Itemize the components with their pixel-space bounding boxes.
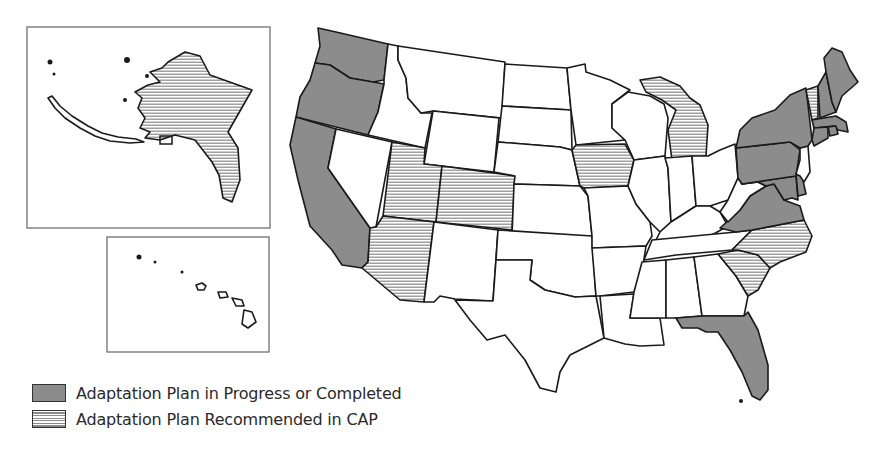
- legend: Adaptation Plan in Progress or Completed…: [32, 380, 401, 432]
- alaska-island: [124, 57, 130, 63]
- florida-keys: [739, 399, 743, 403]
- alaska-inset: [27, 27, 270, 228]
- legend-swatch-recommended: [32, 410, 66, 428]
- state-rhode-island[interactable]: [828, 126, 838, 136]
- state-wyoming[interactable]: [424, 111, 499, 172]
- hawaii-island-oahu[interactable]: [196, 283, 206, 290]
- legend-label-recommended: Adaptation Plan Recommended in CAP: [76, 410, 378, 429]
- alaska-island: [48, 60, 53, 65]
- state-florida[interactable]: [676, 312, 768, 400]
- state-kansas[interactable]: [512, 184, 592, 236]
- legend-label-progress: Adaptation Plan in Progress or Completed: [76, 384, 401, 403]
- hawaii-island-niihau: [137, 255, 142, 260]
- state-new-york[interactable]: [736, 88, 812, 148]
- hawaii-inset-frame: [107, 237, 269, 352]
- legend-item-progress: Adaptation Plan in Progress or Completed: [32, 380, 401, 406]
- alaska-island: [145, 74, 149, 78]
- hawaii-inset: [107, 237, 269, 352]
- state-north-dakota[interactable]: [502, 64, 571, 110]
- state-new-mexico[interactable]: [424, 222, 498, 302]
- alaska-island: [53, 73, 56, 76]
- state-colorado[interactable]: [436, 166, 515, 230]
- state-iowa[interactable]: [572, 144, 634, 188]
- state-arizona[interactable]: [362, 216, 434, 302]
- hawaii-island-kauai: [154, 261, 157, 264]
- contiguous-us: [290, 28, 858, 403]
- hawaii-island-molokai[interactable]: [218, 292, 228, 298]
- legend-item-recommended: Adaptation Plan Recommended in CAP: [32, 406, 401, 432]
- hawaii-island: [181, 271, 184, 274]
- state-connecticut[interactable]: [812, 127, 828, 146]
- legend-swatch-progress: [32, 384, 66, 402]
- alaska-island: [123, 98, 127, 102]
